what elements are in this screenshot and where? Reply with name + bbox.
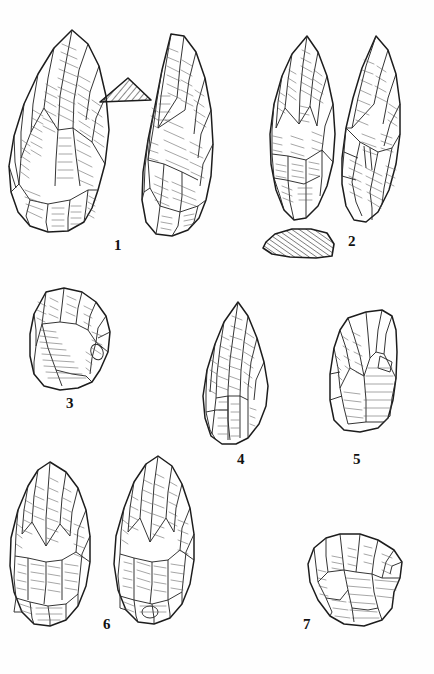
figure-label-5: 5 bbox=[353, 452, 361, 467]
figure-7-dorsal-view bbox=[308, 534, 402, 626]
figure-label-3: 3 bbox=[66, 396, 74, 411]
figure-2-cross-section bbox=[263, 229, 334, 258]
figure-4-dorsal-view bbox=[203, 302, 268, 444]
figure-1-cross-section bbox=[100, 78, 151, 102]
figure-label-1: 1 bbox=[114, 238, 122, 253]
figure-1-dorsal-view bbox=[9, 30, 109, 232]
figure-5-dorsal-view bbox=[330, 310, 397, 432]
figure-1-ventral-view bbox=[142, 34, 213, 236]
figure-6-dorsal-view bbox=[10, 462, 90, 626]
artifact-plate: .o {fill:#ffffff;stroke:#1c1c1c;stroke-w… bbox=[0, 0, 434, 674]
figure-2-dorsal-view bbox=[270, 36, 335, 220]
figure-label-7: 7 bbox=[303, 617, 311, 632]
figure-2-ventral-view bbox=[342, 36, 400, 222]
figure-label-6: 6 bbox=[103, 617, 111, 632]
lithic-illustration-canvas: .o {fill:#ffffff;stroke:#1c1c1c;stroke-w… bbox=[0, 0, 434, 674]
figure-label-4: 4 bbox=[237, 452, 245, 467]
figure-6-ventral-view bbox=[114, 456, 194, 624]
figure-label-2: 2 bbox=[348, 234, 356, 249]
figure-3-dorsal-view bbox=[30, 288, 110, 390]
